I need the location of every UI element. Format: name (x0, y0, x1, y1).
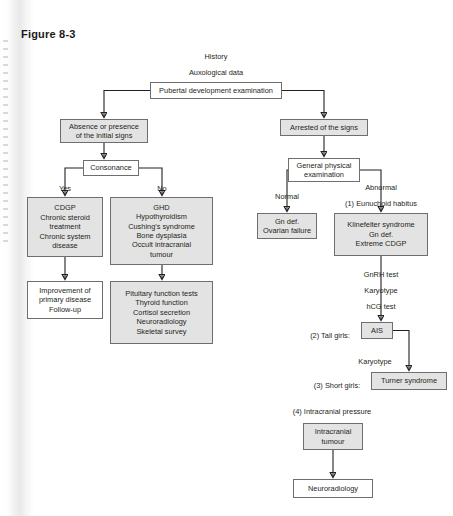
node-text-line: Ovarian failure (263, 226, 311, 235)
edge-label-intracranial-pressure: (4) Intracranial pressure (293, 407, 371, 416)
node-turner-syndrome: Turner syndrome (371, 372, 447, 390)
flowchart-canvas: Pubertal development examinationAbsence … (0, 0, 453, 516)
node-text-line: Hypothyroidism (136, 212, 187, 221)
node-text-line: primary disease (39, 295, 91, 304)
node-text-line: Thyroid function (135, 298, 188, 307)
node-text-line: tumour (150, 250, 173, 259)
node-absence-or-presence: Absence or presenceof the initial signs (60, 119, 148, 143)
node-text-line: Pituitary function tests (125, 289, 197, 298)
edge-label-karyotype-2: Karyotype (358, 357, 391, 366)
node-improvement-of-primary-disease: Improvement ofprimary diseaseFollow-up (27, 281, 103, 319)
edge-label-normal: Normal (275, 192, 299, 201)
edge-label-short-girls: (3) Short girls: (314, 381, 360, 390)
node-text-line: examination (304, 170, 344, 179)
node-arrested-of-the-signs: Arrested of the signs (280, 119, 368, 136)
node-text-line: Improvement of (39, 286, 90, 295)
node-text-line: disease (52, 241, 77, 250)
edge-label-abnormal: Abnormal (365, 183, 397, 192)
node-text-line: Consonance (90, 163, 132, 172)
node-text-line: AIS (371, 326, 383, 335)
edge-label-tall-girls: (2) Tall girls: (310, 331, 350, 340)
node-text-line: Gn def. (369, 230, 393, 239)
node-text-line: Chronic system (40, 232, 91, 241)
node-text-line: treatment (49, 222, 80, 231)
edge-label-karyotype-1: Karyotype (364, 286, 397, 295)
node-pubertal-development-examination: Pubertal development examination (150, 82, 282, 99)
node-neuroradiology: Neuroradiology (293, 479, 373, 498)
node-text-line: Chronic steroid (40, 213, 90, 222)
node-cdgp: CDGPChronic steroidtreatmentChronic syst… (27, 197, 103, 257)
node-text-line: Absence or presence (69, 122, 139, 131)
node-consonance: Consonance (83, 160, 139, 176)
node-gn-def-ovarian-failure: Gn def.Ovarian failure (257, 213, 317, 239)
node-intracranial-tumour: Intracranialtumour (303, 423, 363, 450)
header-note: History (205, 52, 228, 61)
node-text-line: Turner syndrome (381, 376, 437, 385)
node-text-line: Skeletal survey (136, 327, 186, 336)
node-text-line: Follow-up (49, 305, 81, 314)
edge-label-eunuchoid-habitus: (1) Eunuchoid habitus (345, 199, 417, 208)
node-klinefelter-syndrome: Klinefelter syndromeGn def.Extreme CDGP (334, 213, 428, 256)
edge-label-hcg-test: hCG test (366, 302, 395, 311)
node-text-line: Intracranial (315, 427, 352, 436)
edge-label-gnrh-test: GnRH test (364, 270, 399, 279)
node-text-line: Neuroradiology (136, 317, 186, 326)
node-text-line: Cortisol secretion (133, 308, 190, 317)
node-text-line: Arrested of the signs (290, 123, 358, 132)
node-text-line: GHD (153, 203, 169, 212)
node-text-line: Pubertal development examination (159, 86, 273, 95)
node-ais: AIS (361, 322, 393, 339)
node-text-line: of the initial signs (76, 131, 133, 140)
node-text-line: Klinefelter syndrome (347, 220, 414, 229)
node-text-line: Gn def. (275, 217, 299, 226)
node-text-line: CDGP (54, 203, 75, 212)
edge-label-no: No (157, 184, 166, 193)
node-text-line: tumour (321, 437, 344, 446)
header-note: Auxological data (189, 68, 243, 77)
node-text-line: Occult intracranial (132, 240, 191, 249)
node-general-physical-examination: General physicalexamination (288, 158, 360, 182)
node-text-line: Extreme CDGP (356, 239, 407, 248)
node-pituitary-function-tests: Pituitary function testsThyroid function… (110, 281, 213, 344)
node-ghd: GHDHypothyroidismCushing's syndromeBone … (110, 197, 213, 265)
node-text-line: General physical (296, 161, 351, 170)
node-text-line: Neuroradiology (308, 484, 358, 493)
edge-label-yes: Yes (59, 184, 71, 193)
node-text-line: Cushing's syndrome (128, 222, 195, 231)
node-text-line: Bone dysplasia (136, 231, 186, 240)
